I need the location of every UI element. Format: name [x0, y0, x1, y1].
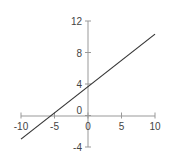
line-chart: -10-50510 1284-40: [0, 0, 173, 160]
x-tick-label: -10: [14, 121, 29, 132]
x-tick-label: 5: [119, 121, 125, 132]
x-tick-label: -5: [50, 121, 59, 132]
y-tick-label: 12: [71, 16, 83, 27]
y-tick-label: 8: [76, 48, 82, 59]
y-tick-label: 4: [76, 79, 82, 90]
y-tick-label: -4: [73, 142, 82, 153]
x-tick-label: 0: [85, 121, 91, 132]
x-tick-label: 10: [149, 121, 161, 132]
y-tick-label-origin: 0: [76, 105, 82, 116]
